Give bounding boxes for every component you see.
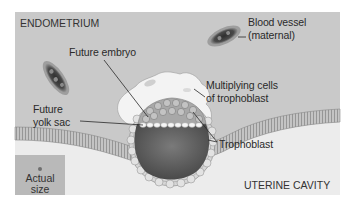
implantation-diagram: ENDOMETRIUM UTERINE CAVITY Blood vessel …: [0, 0, 350, 213]
actual-size-label-line2: size: [15, 184, 65, 195]
multiplying-cells-label-line2: of trophoblast: [206, 92, 268, 104]
trophoblast-label: Trophoblast: [219, 138, 273, 150]
multiplying-cells-label-line1: Multiplying cells: [206, 79, 278, 91]
actual-size-dot: [38, 167, 42, 171]
actual-size-box: Actual size: [15, 155, 65, 195]
uterine-cavity-label: UTERINE CAVITY: [244, 179, 330, 191]
blood-vessel-label-line2: (maternal): [248, 29, 295, 41]
blood-vessel-label-line1: Blood vessel: [248, 16, 306, 28]
future-yolk-sac-label-line2: yolk sac: [33, 116, 70, 128]
future-yolk-sac-label-line1: Future: [33, 103, 63, 115]
future-embryo-label: Future embryo: [69, 46, 136, 58]
endometrium-label: ENDOMETRIUM: [20, 17, 99, 29]
